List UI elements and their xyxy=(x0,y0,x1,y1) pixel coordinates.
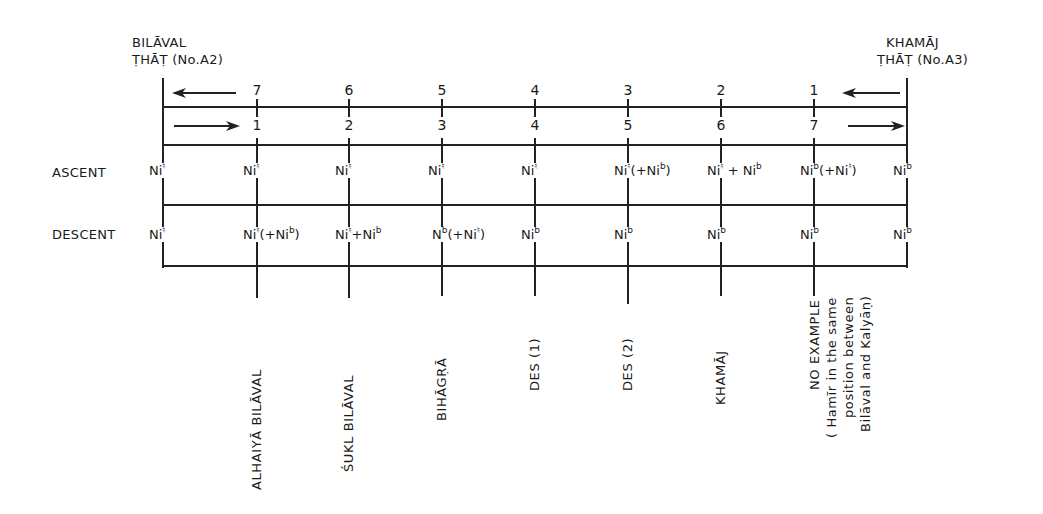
left-that-label: BILĀVAL ṬHĀṬ (No.A2) xyxy=(132,34,223,68)
position-number: 7 xyxy=(804,117,824,133)
ascent-note: Ni♮ xyxy=(242,163,261,178)
position-number: 5 xyxy=(618,117,638,133)
right-that-name: KHAMĀJ xyxy=(877,34,968,51)
descent-note: Nib xyxy=(799,227,820,242)
raga-line: Bilāval and Kalyāṇ) xyxy=(857,296,874,438)
descent-note: Nib xyxy=(706,227,727,242)
arrow-right-icon xyxy=(846,117,906,135)
raga-name-no-example: NO EXAMPLE ( Hamīr in the same position … xyxy=(806,296,874,438)
position-number: 6 xyxy=(711,117,731,133)
left-that-number: ṬHĀṬ (No.A2) xyxy=(132,51,223,68)
ascent-label: ASCENT xyxy=(52,165,106,180)
ascent-note: Nib xyxy=(892,163,913,178)
ascent-note: Nib(+Ni♮) xyxy=(799,163,858,178)
position-number: 4 xyxy=(525,117,545,133)
raga-name: ALHAIYĀ BILĀVAL xyxy=(249,369,265,490)
arrow-right-icon xyxy=(172,117,242,135)
position-number: 2 xyxy=(711,82,731,98)
raga-name: KHAMĀJ xyxy=(713,350,729,405)
ascent-note: Ni♮ xyxy=(148,163,167,178)
position-number: 1 xyxy=(804,82,824,98)
position-number: 4 xyxy=(525,82,545,98)
position-number: 6 xyxy=(339,82,359,98)
position-number: 7 xyxy=(247,82,267,98)
position-number: 2 xyxy=(339,117,359,133)
arrow-left-icon xyxy=(170,84,240,102)
position-number: 1 xyxy=(247,117,267,133)
right-that-label: KHAMĀJ ṬHĀṬ (No.A3) xyxy=(877,34,968,68)
right-that-number: ṬHĀṬ (No.A3) xyxy=(877,51,968,68)
descent-note: Nib xyxy=(892,227,913,242)
descent-note: Nib xyxy=(520,227,541,242)
raga-line: ( Hamīr in the same xyxy=(823,296,840,438)
ascent-note: Ni♮ xyxy=(427,163,446,178)
ascent-note: Ni♮(+Nib) xyxy=(613,163,672,178)
raga-name: BIHĀGṚĀ xyxy=(434,358,450,421)
position-number: 5 xyxy=(432,82,452,98)
descent-note: Ni♮(+Nib) xyxy=(242,227,301,242)
position-number: 3 xyxy=(432,117,452,133)
raga-name: DES (1) xyxy=(527,338,543,391)
descent-note: Ni♮+Nib xyxy=(334,227,383,242)
ascent-note: Ni♮ + Nib xyxy=(706,163,763,178)
raga-name: DES (2) xyxy=(620,338,636,391)
descent-note: Nib xyxy=(613,227,634,242)
ascent-note: Ni♮ xyxy=(334,163,353,178)
raga-name: ŚUKL BILĀVAL xyxy=(341,375,357,472)
descent-label: DESCENT xyxy=(52,227,116,242)
position-number: 3 xyxy=(618,82,638,98)
raga-line: NO EXAMPLE xyxy=(806,296,823,438)
descent-note: Ni♮ xyxy=(148,227,167,242)
arrow-left-icon xyxy=(840,84,904,102)
descent-note: Nb(+Ni♮) xyxy=(431,227,486,242)
ascent-note: Ni♮ xyxy=(520,163,539,178)
left-that-name: BILĀVAL xyxy=(132,34,223,51)
raga-line: position between xyxy=(840,296,857,438)
